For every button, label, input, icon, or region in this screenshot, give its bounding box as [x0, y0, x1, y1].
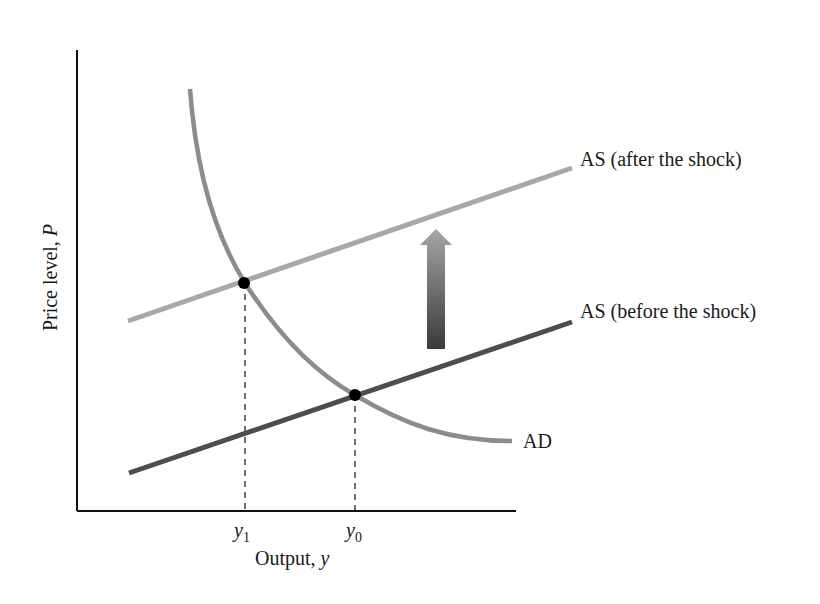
tick-y1-var: y	[234, 519, 243, 541]
tick-y0-sub: 0	[355, 530, 362, 545]
equilibrium-point-y0	[349, 389, 361, 401]
ad-curve	[190, 89, 512, 441]
as-after-label: AS (after the shock)	[580, 148, 742, 171]
equilibrium-point-y1	[238, 277, 250, 289]
x-axis-label: Output, y	[255, 547, 329, 570]
as-after-curve	[128, 168, 572, 321]
tick-y0-var: y	[346, 519, 355, 541]
as-before-label: AS (before the shock)	[580, 300, 756, 323]
ad-label: AD	[523, 430, 552, 453]
y-axis-label-var: P	[39, 224, 61, 236]
x-axis-label-text: Output,	[255, 547, 321, 569]
y-axis-label: Price level, P	[39, 208, 62, 348]
shift-up-arrow-icon	[420, 229, 452, 349]
tick-y1-sub: 1	[243, 530, 250, 545]
x-axis-label-var: y	[321, 547, 330, 569]
tick-y1: y1	[234, 519, 250, 546]
tick-y0: y0	[346, 519, 362, 546]
y-axis-label-text: Price level,	[39, 236, 61, 331]
